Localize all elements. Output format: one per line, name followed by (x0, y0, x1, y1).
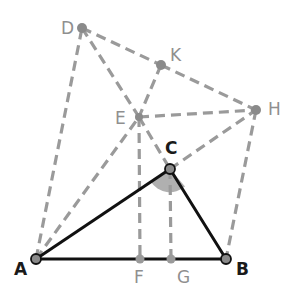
label-C: C (165, 138, 177, 158)
segment-AC (36, 169, 170, 259)
point-F (136, 255, 145, 264)
segment-AD (36, 28, 82, 259)
label-K: K (170, 45, 182, 65)
point-D (77, 23, 87, 33)
label-B: B (236, 259, 249, 279)
label-E: E (115, 108, 126, 128)
dashed-lines (36, 28, 256, 259)
segment-CH (170, 110, 256, 169)
segment-KH (161, 65, 256, 110)
point-E (135, 113, 143, 121)
label-H: H (268, 99, 281, 119)
point-G (167, 255, 176, 264)
label-A: A (14, 259, 28, 279)
point-K (156, 60, 166, 70)
triangle-abc (36, 169, 226, 259)
segment-EH (139, 110, 256, 117)
label-F: F (134, 267, 144, 287)
label-D: D (61, 18, 74, 38)
point-H (251, 105, 261, 115)
geometry-diagram: A B C D E F G H K (0, 0, 298, 308)
segment-KE (139, 65, 161, 117)
segment-HB (226, 110, 256, 259)
segment-DE (82, 28, 139, 117)
point-A (31, 254, 41, 264)
segment-CB (170, 169, 226, 259)
point-C (165, 164, 175, 174)
point-B (221, 254, 231, 264)
label-G: G (177, 267, 190, 287)
